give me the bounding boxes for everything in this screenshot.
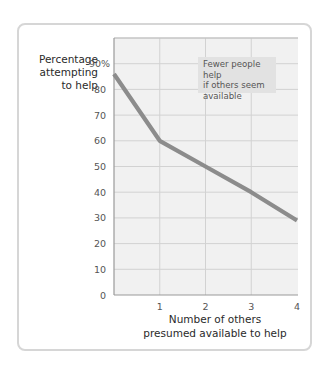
y-tick-label: 20 — [94, 238, 106, 249]
y-tick-label: 40 — [94, 187, 106, 198]
y-tick-label: 80 — [94, 84, 106, 95]
annotation-line: Fewer people help — [203, 59, 276, 80]
annotation-box: Fewer people help if others seem availab… — [198, 57, 276, 93]
y-tick-label: 10 — [94, 264, 106, 275]
y-tick-label: 50 — [94, 161, 106, 172]
x-tick-label: 4 — [294, 301, 300, 312]
y-tick-label: 30 — [94, 212, 106, 223]
x-axis-label-line: Number of others — [120, 312, 310, 326]
y-tick-label: 60 — [94, 135, 106, 146]
x-tick-label: 3 — [248, 301, 254, 312]
y-tick-label: 70 — [94, 110, 106, 121]
y-tick-label: 90% — [89, 58, 110, 69]
x-tick-label: 1 — [157, 301, 163, 312]
x-tick-label: 2 — [202, 301, 208, 312]
y-tick-label: 0 — [100, 290, 106, 301]
x-axis-label-line: presumed available to help — [120, 326, 310, 340]
annotation-line: if others seem — [203, 80, 276, 91]
annotation-line: available — [203, 91, 276, 102]
x-axis-label: Number of others presumed available to h… — [120, 312, 310, 340]
